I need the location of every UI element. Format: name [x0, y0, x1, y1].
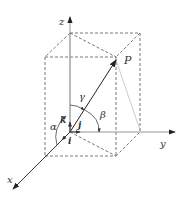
i-label: i: [68, 136, 72, 146]
beta-label: β: [99, 109, 106, 120]
vector-op: [70, 60, 116, 132]
direction-cosines-diagram: z y x P γ β α k j i: [0, 0, 181, 198]
gamma-arc: [70, 105, 84, 110]
point-p-label: P: [123, 54, 132, 67]
x-axis-label: x: [7, 174, 13, 185]
x-axis: [13, 132, 70, 189]
k-label: k: [60, 115, 66, 125]
gamma-label: γ: [79, 91, 85, 102]
axes: [13, 17, 175, 189]
z-axis-label: z: [58, 16, 65, 27]
bounding-box: [45, 33, 140, 156]
beta-arc: [85, 110, 99, 132]
alpha-label: α: [50, 121, 57, 132]
y-axis-label: y: [159, 138, 166, 149]
